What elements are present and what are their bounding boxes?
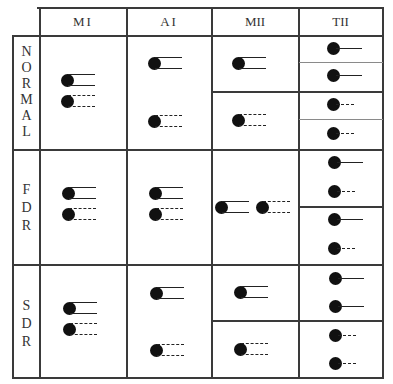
double-solid-icon — [215, 201, 255, 215]
border-header-bottom — [12, 35, 383, 37]
double-solid-icon — [62, 187, 102, 201]
double-solid-icon — [234, 286, 274, 300]
split-normal-mii-tii — [212, 91, 383, 93]
double-dashed-icon — [62, 208, 102, 222]
double-dashed-icon — [61, 95, 101, 109]
single-solid-icon — [329, 272, 369, 286]
split-normal-tii-1 — [299, 62, 383, 63]
column-header-mii: MII — [212, 8, 298, 35]
double-dashed-icon — [149, 208, 189, 222]
split-sdr-mii-tii — [212, 320, 383, 322]
single-solid-icon — [327, 69, 367, 83]
column-header-ai: AI — [127, 8, 211, 35]
double-dashed-icon — [256, 201, 296, 215]
single-solid-icon — [328, 213, 368, 227]
double-solid-icon — [63, 302, 103, 316]
split-normal-tii-3 — [299, 119, 383, 120]
double-dashed-icon — [63, 323, 103, 337]
border-col-mi-ai — [126, 7, 128, 379]
double-solid-icon — [232, 57, 272, 71]
column-header-tii: TII — [299, 8, 382, 35]
single-dashed-icon — [329, 357, 369, 371]
single-dashed-icon — [327, 127, 367, 141]
single-dashed-icon — [327, 98, 367, 112]
border-row1-bottom — [12, 149, 383, 151]
single-solid-icon — [327, 42, 367, 56]
single-dashed-icon — [329, 329, 369, 343]
double-dashed-icon — [148, 115, 188, 129]
border-col-ai-mii — [211, 7, 213, 379]
double-solid-icon — [148, 57, 188, 71]
single-dashed-icon — [328, 185, 368, 199]
border-bottom — [12, 377, 383, 379]
double-dashed-icon — [234, 343, 274, 357]
double-solid-icon — [150, 287, 190, 301]
double-solid-icon — [61, 74, 101, 88]
row-label-normal: N O R M A L — [13, 44, 40, 140]
single-dashed-icon — [328, 242, 368, 256]
double-solid-icon — [149, 187, 189, 201]
border-row2-bottom — [12, 264, 383, 266]
double-dashed-icon — [150, 344, 190, 358]
row-label-fdr: F D R — [13, 181, 40, 235]
double-dashed-icon — [232, 114, 272, 128]
split-fdr-tii — [299, 206, 383, 208]
column-header-mi: MI — [40, 8, 126, 35]
single-solid-icon — [329, 300, 369, 314]
row-label-sdr: S D R — [13, 297, 40, 351]
single-solid-icon — [328, 156, 368, 170]
